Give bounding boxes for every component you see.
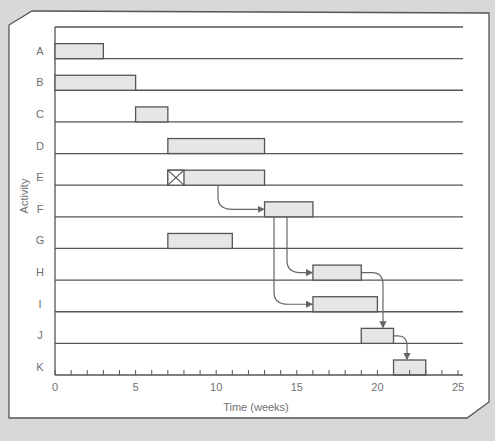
activity-bar bbox=[313, 265, 361, 280]
activity-label: B bbox=[36, 76, 43, 88]
activity-bar bbox=[313, 297, 377, 312]
activity-label: D bbox=[36, 140, 44, 152]
x-tick-label: 0 bbox=[52, 381, 58, 393]
activity-label: H bbox=[36, 266, 44, 278]
activity-bar bbox=[168, 139, 265, 154]
gantt-chart: 0510152025 ABCDEFGHIJK Time (weeks) Acti… bbox=[0, 0, 495, 441]
x-tick-label: 5 bbox=[133, 381, 139, 393]
y-axis-title: Activity bbox=[18, 178, 30, 213]
activity-bar bbox=[55, 75, 136, 90]
activity-label: E bbox=[36, 171, 43, 183]
activity-label: G bbox=[36, 234, 45, 246]
activity-bar bbox=[265, 202, 313, 217]
x-axis-title: Time (weeks) bbox=[223, 401, 289, 413]
activity-bar bbox=[136, 107, 168, 122]
x-tick-label: 15 bbox=[291, 381, 303, 393]
x-tick-label: 10 bbox=[210, 381, 222, 393]
activity-label: F bbox=[37, 203, 44, 215]
activity-label: A bbox=[36, 45, 44, 57]
activity-label: I bbox=[38, 298, 41, 310]
x-tick-label: 20 bbox=[371, 381, 383, 393]
activity-label: J bbox=[37, 329, 43, 341]
chart-panel bbox=[9, 11, 489, 418]
activity-label: K bbox=[36, 361, 44, 373]
activity-bar bbox=[55, 44, 103, 59]
activity-bar bbox=[168, 233, 232, 248]
activity-label: C bbox=[36, 108, 44, 120]
x-tick-label: 25 bbox=[452, 381, 464, 393]
activity-bar bbox=[361, 328, 393, 343]
